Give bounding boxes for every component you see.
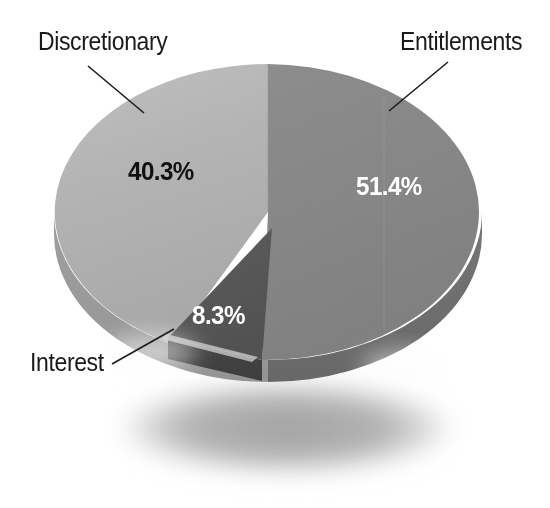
leader-line-discretionary <box>88 66 144 113</box>
rim-highlight <box>104 335 196 369</box>
rim-bloom <box>362 350 446 386</box>
slice-label-interest: Interest <box>30 348 104 377</box>
slice-value-entitlements: 51.4% <box>356 171 422 202</box>
pie-chart-graphic <box>0 0 550 508</box>
slice-label-entitlements: Entitlements <box>400 27 522 56</box>
leader-line-entitlements <box>389 62 448 111</box>
drop-shadow <box>104 376 468 480</box>
slice-value-discretionary: 40.3% <box>128 156 194 187</box>
pie-chart-figure: Discretionary Entitlements Interest 40.3… <box>0 0 550 508</box>
slice-value-interest: 8.3% <box>192 300 245 331</box>
slice-label-discretionary: Discretionary <box>38 27 167 56</box>
